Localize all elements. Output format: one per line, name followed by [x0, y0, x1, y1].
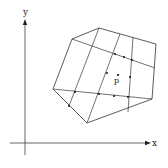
internal-grid-lines — [53, 28, 155, 123]
query-point-group: p — [114, 74, 119, 85]
intersection-point — [127, 96, 129, 98]
intersection-point — [113, 95, 115, 97]
intersection-point — [106, 72, 108, 74]
intersection-point — [98, 93, 100, 95]
grid-line — [53, 89, 152, 99]
intersection-point — [74, 91, 76, 93]
grid-line — [72, 39, 155, 68]
x-axis-label: x — [152, 138, 157, 148]
intersection-point — [123, 56, 125, 58]
y-axis-arrowhead-icon — [23, 19, 27, 25]
grid-line — [128, 37, 133, 112]
intersection-point — [129, 76, 131, 78]
intersection-point — [131, 59, 133, 61]
y-axis-label: y — [22, 7, 29, 17]
intersection-point — [114, 53, 116, 55]
polygon-grid-diagram: x y p — [0, 0, 168, 168]
query-point-label: p — [114, 76, 119, 85]
diagram-canvas: x y p — [0, 0, 168, 168]
intersection-point — [68, 105, 70, 107]
intersection-points — [68, 53, 133, 107]
axes: x y — [10, 7, 157, 155]
x-axis-arrowhead-icon — [145, 141, 151, 145]
